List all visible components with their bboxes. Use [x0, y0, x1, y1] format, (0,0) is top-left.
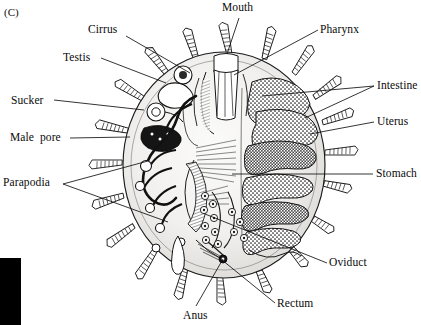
label-anus: Anus: [183, 310, 208, 322]
label-parapodia: Parapodia: [3, 177, 50, 189]
label-sucker: Sucker: [11, 95, 44, 107]
anatomy-figure: (C) Cirrus Mouth Pharynx Testis Intestin…: [0, 0, 421, 325]
label-stomach: Stomach: [376, 168, 417, 180]
label-oviduct: Oviduct: [329, 257, 367, 269]
label-cirrus: Cirrus: [88, 24, 117, 36]
leader-sucker: [54, 100, 144, 110]
label-uterus: Uterus: [377, 116, 408, 128]
label-mouth: Mouth: [222, 2, 253, 14]
anatomy-illustration: [0, 0, 421, 325]
panel-tag: (C): [4, 6, 19, 18]
leader-male-pore: [70, 137, 130, 138]
label-intestine: Intestine: [377, 80, 418, 92]
label-rectum: Rectum: [277, 298, 313, 310]
label-male-pore: Male pore: [10, 132, 61, 144]
black-edge-bar: [0, 258, 21, 325]
label-pharynx: Pharynx: [320, 24, 359, 36]
label-testis: Testis: [63, 52, 90, 64]
